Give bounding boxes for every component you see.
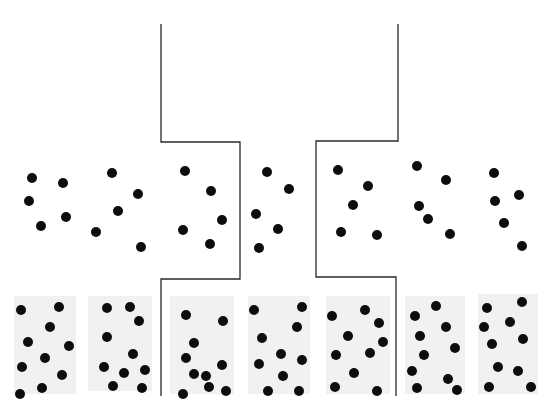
particle-dot xyxy=(445,229,455,239)
particle-dot xyxy=(136,242,146,252)
particle-dot xyxy=(178,225,188,235)
particle-dot xyxy=(263,386,273,396)
middle-row xyxy=(24,161,527,253)
particle-dot xyxy=(36,221,46,231)
particle-dot xyxy=(297,355,307,365)
particle-dot xyxy=(372,230,382,240)
particle-dot xyxy=(58,178,68,188)
particle-dot xyxy=(27,173,37,183)
particle-dot xyxy=(125,302,135,312)
particle-dot xyxy=(206,186,216,196)
particle-channel-diagram xyxy=(0,0,556,414)
particle-dot xyxy=(262,167,272,177)
particle-dot xyxy=(482,303,492,313)
particle-dot xyxy=(415,331,425,341)
particle-dot xyxy=(487,339,497,349)
particle-dot xyxy=(360,305,370,315)
particle-dot xyxy=(128,349,138,359)
particle-dot xyxy=(16,305,26,315)
particle-dot xyxy=(273,224,283,234)
particle-dot xyxy=(23,337,33,347)
stipple-region xyxy=(88,296,152,391)
particle-dot xyxy=(412,161,422,171)
dot-group-2 xyxy=(91,168,146,252)
particle-dot xyxy=(40,353,50,363)
particle-dot xyxy=(514,190,524,200)
particle-dot xyxy=(327,311,337,321)
particle-dot xyxy=(201,371,211,381)
particle-dot xyxy=(107,168,117,178)
particle-dot xyxy=(412,383,422,393)
particle-dot xyxy=(61,212,71,222)
particle-dot xyxy=(372,386,382,396)
particle-dot xyxy=(181,310,191,320)
particle-dot xyxy=(133,189,143,199)
particle-dot xyxy=(489,168,499,178)
particle-dot xyxy=(294,386,304,396)
particle-dot xyxy=(443,374,453,384)
particle-dot xyxy=(37,383,47,393)
particle-dot xyxy=(441,175,451,185)
particle-dot xyxy=(297,302,307,312)
particle-dot xyxy=(249,305,259,315)
particle-dot xyxy=(493,362,503,372)
particle-dot xyxy=(374,318,384,328)
particle-dot xyxy=(217,215,227,225)
stipple-background-layer xyxy=(14,294,538,394)
dot-group-3 xyxy=(178,166,227,249)
particle-dot xyxy=(45,322,55,332)
dot-group-5 xyxy=(333,165,382,240)
particle-dot xyxy=(102,332,112,342)
particle-dot xyxy=(276,349,286,359)
particle-dot xyxy=(423,214,433,224)
stipple-region xyxy=(170,296,234,394)
particle-dot xyxy=(292,322,302,332)
particle-dot xyxy=(333,165,343,175)
particle-dot xyxy=(284,184,294,194)
particle-dot xyxy=(137,383,147,393)
particle-dot xyxy=(57,370,67,380)
particle-dot xyxy=(254,359,264,369)
particle-dot xyxy=(336,227,346,237)
particle-dot xyxy=(178,389,188,399)
particle-dot xyxy=(278,371,288,381)
dot-group-1 xyxy=(24,173,71,231)
particle-dot xyxy=(517,241,527,251)
particle-dot xyxy=(218,316,228,326)
particle-dot xyxy=(204,382,214,392)
particle-dot xyxy=(349,368,359,378)
particle-dot xyxy=(134,316,144,326)
particle-dot xyxy=(518,334,528,344)
particle-dot xyxy=(205,239,215,249)
particle-dot xyxy=(217,360,227,370)
particle-dot xyxy=(119,368,129,378)
particle-dot xyxy=(140,365,150,375)
particle-dot xyxy=(414,201,424,211)
particle-dot xyxy=(180,166,190,176)
particle-dot xyxy=(419,350,429,360)
particle-dot xyxy=(479,322,489,332)
particle-dot xyxy=(251,209,261,219)
particle-dot xyxy=(24,196,34,206)
particle-dot xyxy=(108,381,118,391)
particle-dot xyxy=(513,366,523,376)
particle-dot xyxy=(257,333,267,343)
particle-dot xyxy=(431,301,441,311)
particle-dot xyxy=(407,366,417,376)
particle-dot xyxy=(378,337,388,347)
particle-dot xyxy=(189,369,199,379)
particle-dot xyxy=(331,350,341,360)
particle-dot xyxy=(410,311,420,321)
particle-dot xyxy=(348,200,358,210)
particle-dot xyxy=(450,343,460,353)
particle-dot xyxy=(113,206,123,216)
particle-dot xyxy=(330,382,340,392)
particle-dot xyxy=(490,196,500,206)
particle-dot xyxy=(181,353,191,363)
particle-dot xyxy=(499,218,509,228)
particle-dot xyxy=(363,181,373,191)
particle-dot xyxy=(526,382,536,392)
particle-dot xyxy=(102,303,112,313)
particle-dot xyxy=(365,348,375,358)
dot-group-7 xyxy=(489,168,527,251)
